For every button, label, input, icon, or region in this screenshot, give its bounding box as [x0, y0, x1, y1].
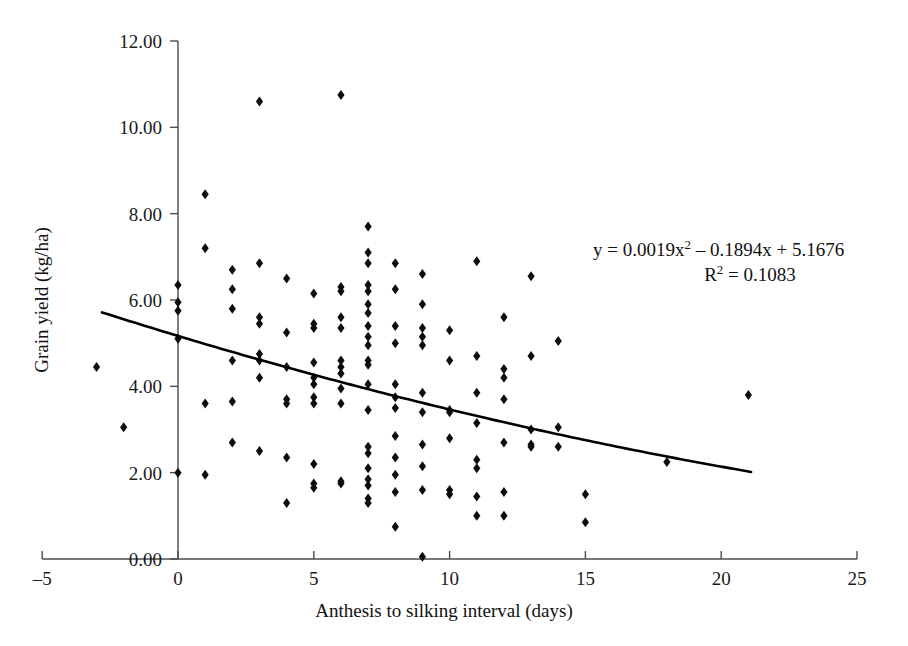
data-point-marker — [446, 355, 453, 365]
data-point-marker — [419, 332, 426, 342]
data-point-marker — [392, 258, 399, 268]
data-point-marker — [663, 457, 670, 467]
data-point-marker — [473, 463, 480, 473]
axes-group — [42, 41, 857, 559]
data-point-marker — [256, 96, 263, 106]
data-point-marker — [419, 269, 426, 279]
data-point-marker — [582, 517, 589, 527]
data-point-marker — [392, 522, 399, 532]
data-point-marker — [473, 455, 480, 465]
data-point-marker — [473, 256, 480, 266]
data-point-marker — [392, 321, 399, 331]
data-point-marker — [527, 351, 534, 361]
r-squared-value: = 0.1083 — [723, 264, 795, 285]
equation-annotation: y = 0.0019x2 – 0.1894x + 5.1676 R2 = 0.1… — [593, 237, 844, 285]
data-point-marker — [582, 489, 589, 499]
data-point-marker — [229, 265, 236, 275]
data-point-marker — [229, 284, 236, 294]
x-axis-title: Anthesis to silking interval (days) — [315, 600, 573, 622]
data-point-marker — [174, 297, 181, 307]
data-point-marker — [256, 446, 263, 456]
data-point-marker — [310, 459, 317, 469]
data-point-marker — [283, 453, 290, 463]
data-point-marker — [419, 440, 426, 450]
y-tick-label: 6.00 — [129, 290, 162, 311]
data-point-marker — [419, 299, 426, 309]
data-point-marker — [283, 498, 290, 508]
data-point-marker — [419, 323, 426, 333]
data-point-marker — [337, 323, 344, 333]
trendline-group — [102, 312, 751, 472]
data-point-marker — [392, 487, 399, 497]
data-point-marker — [419, 552, 426, 562]
data-point-marker — [202, 243, 209, 253]
x-tick-label: 0 — [173, 568, 183, 589]
y-tick-label: 4.00 — [129, 376, 162, 397]
data-point-marker — [310, 358, 317, 368]
x-tick-label: 15 — [576, 568, 595, 589]
x-tick-label: 10 — [440, 568, 459, 589]
data-point-marker — [365, 222, 372, 232]
data-point-marker — [473, 511, 480, 521]
data-point-marker — [392, 453, 399, 463]
data-point-marker — [473, 388, 480, 398]
data-point-marker — [500, 364, 507, 374]
data-point-marker — [500, 373, 507, 383]
data-point-marker — [745, 390, 752, 400]
equation-suffix: – 0.1894x + 5.1676 — [691, 239, 844, 260]
data-point-marker — [283, 273, 290, 283]
data-point-marker — [365, 258, 372, 268]
data-point-marker — [174, 468, 181, 478]
data-point-marker — [365, 481, 372, 491]
data-point-marker — [555, 422, 562, 432]
equation-prefix: y = 0.0019x — [593, 239, 685, 260]
data-point-marker — [473, 351, 480, 361]
x-tick-label: 25 — [848, 568, 867, 589]
y-tick-label: 12.00 — [119, 31, 162, 52]
data-point-marker — [500, 511, 507, 521]
tick-labels-group: –505101520250.002.004.006.008.0010.0012.… — [32, 31, 867, 589]
data-point-marker — [310, 399, 317, 409]
data-point-marker — [500, 437, 507, 447]
scatter-plot: –505101520250.002.004.006.008.0010.0012.… — [0, 0, 908, 646]
chart-figure: –505101520250.002.004.006.008.0010.0012.… — [0, 0, 908, 646]
data-point-marker — [365, 299, 372, 309]
y-tick-label: 2.00 — [129, 463, 162, 484]
data-point-marker — [283, 327, 290, 337]
data-point-marker — [337, 383, 344, 393]
regression-equation-text: y = 0.0019x2 – 0.1894x + 5.1676 — [593, 237, 844, 260]
data-point-marker — [392, 470, 399, 480]
data-point-marker — [392, 284, 399, 294]
data-point-marker — [500, 394, 507, 404]
data-point-marker — [202, 399, 209, 409]
data-point-marker — [256, 258, 263, 268]
data-point-marker — [365, 286, 372, 296]
data-point-marker — [365, 248, 372, 258]
data-point-marker — [337, 90, 344, 100]
data-point-marker — [446, 433, 453, 443]
data-point-marker — [392, 379, 399, 389]
data-point-marker — [365, 321, 372, 331]
data-point-marker — [229, 396, 236, 406]
data-point-marker — [202, 470, 209, 480]
data-point-marker — [446, 325, 453, 335]
data-point-marker — [473, 418, 480, 428]
data-point-marker — [527, 271, 534, 281]
data-point-marker — [473, 491, 480, 501]
data-point-marker — [419, 407, 426, 417]
data-point-marker — [229, 355, 236, 365]
data-point-marker — [337, 312, 344, 322]
regression-trendline — [102, 312, 751, 472]
data-point-marker — [419, 340, 426, 350]
data-point-marker — [365, 463, 372, 473]
data-point-marker — [337, 399, 344, 409]
data-point-marker — [365, 308, 372, 318]
data-point-marker — [392, 431, 399, 441]
data-point-marker — [256, 373, 263, 383]
data-point-marker — [174, 306, 181, 316]
x-tick-label: 5 — [309, 568, 319, 589]
data-point-marker — [229, 437, 236, 447]
data-point-marker — [337, 368, 344, 378]
x-tick-label: –5 — [32, 568, 52, 589]
data-point-marker — [93, 362, 100, 372]
